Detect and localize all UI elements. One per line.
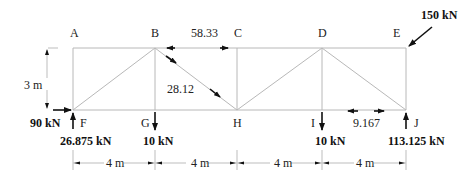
load-F-horizontal: 90 kN	[30, 110, 71, 130]
arrow-icon	[210, 89, 220, 97]
load-label-I: 10 kN	[315, 134, 346, 148]
load-label-150kN: 150 kN	[421, 8, 458, 22]
reaction-label-F: 26.875 kN	[60, 134, 112, 148]
node-label-C: C	[234, 26, 242, 40]
member-DJ	[322, 48, 406, 110]
truss-members	[73, 48, 406, 110]
dimension-label-span-1: 4 m	[106, 156, 125, 170]
arrow-icon	[166, 56, 176, 63]
dimension-label-span-4: 4 m	[356, 156, 375, 170]
dimension-label-height: 3 m	[24, 78, 43, 92]
truss-diagram: A B C D E F G H I J 58.33 28.12 9.167 15…	[0, 0, 476, 181]
dimension-height: 3 m	[24, 48, 58, 109]
arrow-down-icon	[45, 103, 49, 109]
node-label-D: D	[318, 26, 327, 40]
node-label-G: G	[141, 116, 150, 130]
force-label-IJ: 9.167	[353, 116, 380, 130]
member-force-IJ: 9.167	[348, 111, 384, 130]
node-label-E: E	[393, 26, 400, 40]
node-label-A: A	[70, 26, 79, 40]
dimension-label-span-2: 4 m	[191, 156, 210, 170]
load-E-inclined: 150 kN	[409, 8, 458, 46]
load-I: 10 kN	[315, 112, 346, 148]
force-label-BH: 28.12	[167, 82, 194, 96]
load-label-90kN: 90 kN	[30, 116, 61, 130]
arrow-icon	[409, 27, 432, 46]
dimension-label-span-3: 4 m	[274, 156, 293, 170]
member-FB	[73, 48, 155, 110]
node-label-B: B	[151, 26, 159, 40]
node-label-J: J	[414, 116, 419, 130]
node-label-I: I	[311, 116, 315, 130]
load-label-G: 10 kN	[143, 134, 174, 148]
reaction-label-J: 113.125 kN	[388, 134, 445, 148]
node-label-F: F	[80, 116, 87, 130]
force-label-BC: 58.33	[191, 26, 218, 40]
dimension-spans: 4 m 4 m 4 m 4 m	[73, 150, 406, 170]
member-force-BC: 58.33	[167, 26, 228, 48]
node-label-H: H	[233, 116, 242, 130]
arrow-up-icon	[45, 49, 49, 55]
member-HD	[237, 48, 322, 110]
